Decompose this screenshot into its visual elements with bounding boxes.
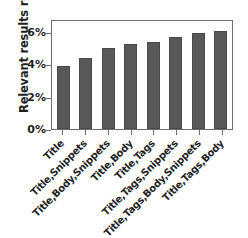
y-tick-label: 6% — [16, 28, 46, 38]
plot-area — [51, 20, 233, 130]
x-tick-mark — [153, 130, 154, 135]
bar[interactable] — [79, 58, 92, 129]
bar-slot — [210, 21, 233, 129]
y-tick-mark — [45, 65, 51, 66]
x-tick-mark — [176, 130, 177, 135]
bar-slot — [120, 21, 143, 129]
bar[interactable] — [57, 66, 70, 129]
bar[interactable] — [102, 48, 115, 129]
x-tick-mark — [108, 130, 109, 135]
y-tick-label: 0% — [16, 125, 46, 135]
bar[interactable] — [192, 33, 205, 129]
x-tick-mark — [199, 130, 200, 135]
bar-slot — [187, 21, 210, 129]
bar-chart-figure: Relevant results retrieved 0%2%4%6% Titl… — [0, 0, 248, 238]
y-tick-label: 2% — [16, 93, 46, 103]
bar[interactable] — [214, 31, 227, 129]
bar-slot — [52, 21, 75, 129]
bar-slot — [165, 21, 188, 129]
x-tick-mark — [131, 130, 132, 135]
x-tick-mark — [85, 130, 86, 135]
bar-slot — [97, 21, 120, 129]
bars-layer — [52, 21, 232, 129]
x-tick-mark — [62, 130, 63, 135]
x-tick-mark — [222, 130, 223, 135]
y-tick-label: 4% — [16, 60, 46, 70]
y-tick-mark — [45, 98, 51, 99]
bar-slot — [142, 21, 165, 129]
bar[interactable] — [124, 44, 137, 129]
bar-slot — [75, 21, 98, 129]
bar[interactable] — [147, 42, 160, 129]
bar[interactable] — [169, 37, 182, 129]
y-tick-mark — [45, 130, 51, 131]
y-tick-mark — [45, 33, 51, 34]
